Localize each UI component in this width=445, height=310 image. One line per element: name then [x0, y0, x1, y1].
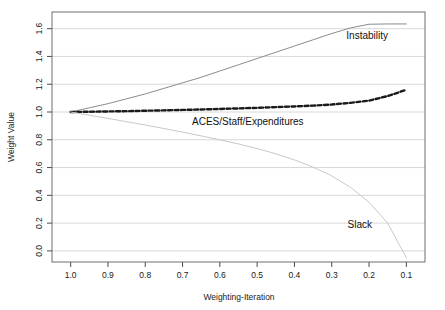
series-label-instability: Instability [346, 30, 388, 41]
line-chart: 1.00.90.80.70.60.50.40.30.20.10.00.20.40… [0, 0, 445, 310]
y-axis-title: Weight Value [6, 112, 16, 162]
y-tick-label-0.0: 0.0 [34, 245, 44, 257]
x-tick-label-0.4: 0.4 [289, 270, 301, 280]
axis-ticks [47, 29, 406, 267]
y-tick-label-1.6: 1.6 [34, 22, 44, 34]
x-tick-label-0.2: 0.2 [363, 270, 375, 280]
x-axis-title: Weighting-Iteration [203, 292, 274, 302]
y-tick-label-0.8: 0.8 [34, 134, 44, 146]
x-tick-label-0.5: 0.5 [251, 270, 263, 280]
y-tick-label-0.2: 0.2 [34, 217, 44, 229]
x-tick-label-1.0: 1.0 [65, 270, 77, 280]
y-tick-label-1.2: 1.2 [34, 78, 44, 90]
series-annotations: InstabilityACES/Staff/ExpendituresSlack [192, 30, 388, 230]
y-tick-label-1.0: 1.0 [34, 106, 44, 118]
x-tick-label-0.1: 0.1 [400, 270, 412, 280]
series-line-aces-staff-expenditures [71, 90, 407, 112]
series-label-slack: Slack [347, 219, 372, 230]
grid-lines [52, 29, 425, 251]
chart-container: 1.00.90.80.70.60.50.40.30.20.10.00.20.40… [0, 0, 445, 310]
x-tick-label-0.3: 0.3 [326, 270, 338, 280]
series-label-aces-staff-expenditures: ACES/Staff/Expenditures [192, 116, 304, 127]
y-tick-label-0.4: 0.4 [34, 189, 44, 201]
x-tick-label-0.8: 0.8 [139, 270, 151, 280]
y-tick-label-1.4: 1.4 [34, 50, 44, 62]
x-tick-label-0.6: 0.6 [214, 270, 226, 280]
y-tick-label-0.6: 0.6 [34, 161, 44, 173]
x-tick-label-0.7: 0.7 [177, 270, 189, 280]
series-line-slack [71, 112, 407, 258]
tick-labels: 1.00.90.80.70.60.50.40.30.20.10.00.20.40… [34, 22, 413, 280]
x-tick-label-0.9: 0.9 [102, 270, 114, 280]
